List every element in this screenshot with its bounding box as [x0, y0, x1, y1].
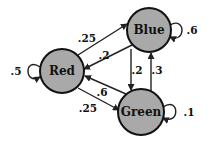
self-loop-red — [28, 65, 40, 79]
label-red-green: .25 — [79, 102, 97, 114]
label-red-blue: .25 — [78, 32, 96, 44]
label-green-green: .1 — [184, 106, 195, 118]
label-green-red: .6 — [97, 86, 108, 98]
label-blue-green: .2 — [132, 64, 143, 76]
node-green-label: Green — [121, 105, 162, 119]
node-blue-label: Blue — [133, 23, 164, 37]
label-blue-red: .2 — [99, 49, 110, 61]
node-red: Red — [40, 49, 84, 93]
node-blue: Blue — [127, 8, 171, 52]
node-green: Green — [118, 89, 164, 135]
label-green-blue: .3 — [152, 64, 163, 76]
label-red-red: .5 — [11, 65, 22, 77]
markov-chain-diagram: Red Blue Green .5 .25 .25 .6 .2 .2 .1 .6… — [0, 0, 208, 143]
node-red-label: Red — [49, 64, 76, 78]
label-blue-blue: .6 — [187, 24, 198, 36]
